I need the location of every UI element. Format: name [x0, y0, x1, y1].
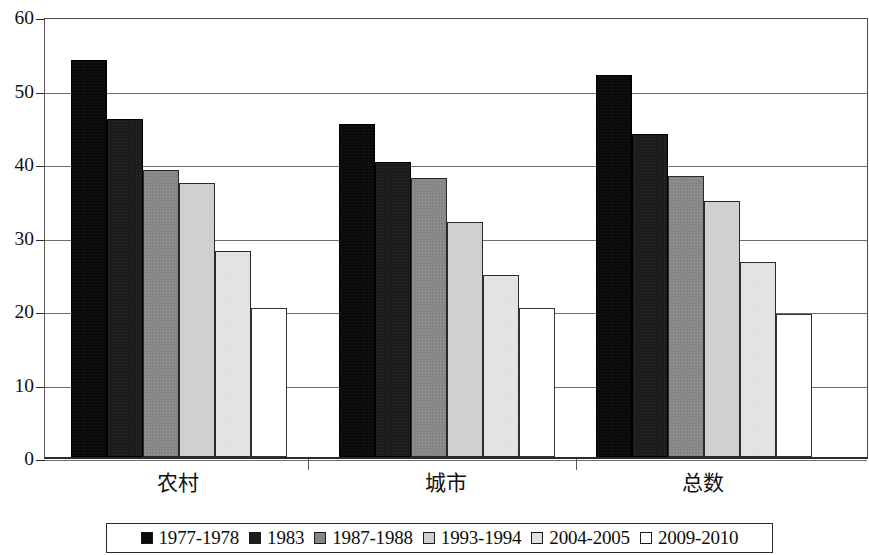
legend-swatch-icon-1983	[249, 532, 261, 544]
legend-swatch-icon-2009-2010	[640, 532, 652, 544]
bar-总数-1987-1988	[668, 176, 704, 458]
bar-城市-2009-2010	[519, 308, 555, 457]
bar-城市-1987-1988	[411, 178, 447, 457]
y-tick-label-30: 30	[15, 228, 35, 250]
y-axis-labels: 0102030405060	[0, 18, 38, 459]
y-tick-label-0: 0	[24, 448, 34, 470]
bar-texture	[216, 252, 250, 456]
plot-area	[44, 18, 868, 459]
legend-label: 2009-2010	[658, 527, 739, 549]
bar-农村-2009-2010	[251, 308, 287, 457]
bar-texture	[180, 184, 214, 456]
bar-texture	[669, 177, 703, 457]
y-tick-0	[36, 460, 45, 461]
bar-农村-2004-2005	[215, 251, 251, 457]
legend-swatch-icon-2004-2005	[531, 532, 543, 544]
bar-texture	[705, 202, 739, 456]
y-tick-label-10: 10	[15, 375, 35, 397]
legend-label: 1977-1978	[159, 527, 240, 549]
bar-texture	[633, 135, 667, 456]
x-axis-tick	[576, 459, 577, 470]
bar-texture	[340, 125, 374, 456]
gridline-0	[45, 460, 867, 461]
bar-总数-1993-1994	[704, 201, 740, 457]
bar-总数-1983	[632, 134, 668, 457]
y-tick-label-20: 20	[15, 301, 35, 323]
bar-texture	[484, 276, 518, 456]
legend-label: 1993-1994	[441, 527, 522, 549]
legend-swatch-icon-1987-1988	[314, 532, 326, 544]
bar-texture	[108, 120, 142, 456]
x-axis-label-总数: 总数	[682, 466, 724, 496]
bar-城市-2004-2005	[483, 275, 519, 457]
legend-swatch-icon-1993-1994	[423, 532, 435, 544]
x-axis-label-城市: 城市	[425, 466, 467, 496]
bar-texture	[741, 263, 775, 456]
bar-texture	[448, 223, 482, 456]
y-tick-label-40: 40	[15, 154, 35, 176]
legend-item-1977-1978: 1977-1978	[136, 527, 245, 549]
bar-texture	[597, 76, 631, 456]
y-tick-60	[36, 19, 45, 20]
bar-农村-1977-1978	[71, 60, 107, 457]
legend-swatch-icon-1977-1978	[141, 532, 153, 544]
legend-label: 1987-1988	[332, 527, 413, 549]
bar-城市-1993-1994	[447, 222, 483, 457]
y-tick-label-50: 50	[15, 81, 35, 103]
x-axis-label-农村: 农村	[157, 466, 199, 496]
bar-总数-2009-2010	[776, 314, 812, 457]
y-tick-label-60: 60	[15, 7, 35, 29]
chart-container: 0102030405060 农村城市总数 1977-197819831987-1…	[0, 0, 869, 555]
bar-总数-2004-2005	[740, 262, 776, 457]
bar-城市-1977-1978	[339, 124, 375, 457]
chart-legend: 1977-197819831987-19881993-19942004-2005…	[106, 523, 773, 553]
legend-label: 1983	[267, 527, 304, 549]
y-tick-10	[36, 387, 45, 388]
y-tick-20	[36, 313, 45, 314]
bar-城市-1983	[375, 162, 411, 457]
bar-农村-1983	[107, 119, 143, 457]
legend-item-1987-1988: 1987-1988	[309, 527, 418, 549]
bar-texture	[412, 179, 446, 456]
bar-texture	[144, 171, 178, 456]
x-axis-tick	[308, 459, 309, 470]
y-tick-50	[36, 93, 45, 94]
bar-农村-1993-1994	[179, 183, 215, 457]
y-tick-30	[36, 240, 45, 241]
legend-item-1983: 1983	[244, 527, 309, 549]
y-tick-40	[36, 166, 45, 167]
legend-item-2004-2005: 2004-2005	[526, 527, 635, 549]
bar-texture	[376, 163, 410, 456]
bar-总数-1977-1978	[596, 75, 632, 457]
bar-农村-1987-1988	[143, 170, 179, 457]
legend-item-1993-1994: 1993-1994	[418, 527, 527, 549]
legend-item-2009-2010: 2009-2010	[635, 527, 744, 549]
legend-label: 2004-2005	[549, 527, 630, 549]
bar-texture	[72, 61, 106, 456]
